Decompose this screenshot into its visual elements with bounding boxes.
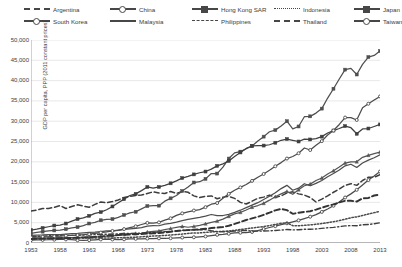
x-tick-label: 1968 xyxy=(103,246,133,254)
legend-item-hong-kong-sar[interactable]: Hong Kong SAR xyxy=(192,3,266,15)
legend-marker-icon xyxy=(119,6,126,13)
legend-label: Taiwan xyxy=(383,18,402,25)
legend-label: South Korea xyxy=(53,18,87,25)
legend-swatch-icon xyxy=(354,4,380,14)
legend-swatch-icon xyxy=(274,16,300,26)
legend-label: Thailand xyxy=(303,18,327,25)
x-tick-label: 1993 xyxy=(249,246,279,254)
legend-marker-icon xyxy=(363,6,370,13)
chart-legend: ArgentinaChinaHong Kong SARIndonesiaJapa… xyxy=(24,2,386,28)
legend-item-argentina[interactable]: Argentina xyxy=(24,3,80,15)
legend-label: Malaysia xyxy=(139,18,163,25)
legend-row-1: ArgentinaChinaHong Kong SARIndonesiaJapa… xyxy=(24,3,386,15)
y-tick-label: 30,000 xyxy=(1,118,29,125)
legend-marker-icon xyxy=(363,18,370,25)
legend-swatch-icon xyxy=(110,16,136,26)
legend-label: Argentina xyxy=(53,6,80,13)
legend-item-philippines[interactable]: Philippines xyxy=(192,15,251,27)
y-tick-label: 15,000 xyxy=(1,179,29,186)
y-tick-label: 20,000 xyxy=(1,158,29,165)
legend-label: Hong Kong SAR xyxy=(221,6,266,13)
legend-item-south-korea[interactable]: South Korea xyxy=(24,15,87,27)
legend-marker-icon xyxy=(33,18,40,25)
x-tick-label: 1953 xyxy=(16,246,46,254)
plot-area xyxy=(31,40,380,243)
x-tick-label: 1988 xyxy=(220,246,250,254)
x-axis-tick-labels: 1953195819631968197319781983198819931998… xyxy=(31,246,380,260)
y-tick-label: 25,000 xyxy=(1,138,29,145)
legend-item-indonesia[interactable]: Indonesia xyxy=(274,3,330,15)
y-tick-label: 50,000 xyxy=(1,37,29,44)
x-tick-label: 2008 xyxy=(336,246,366,254)
legend-label: Indonesia xyxy=(303,6,330,13)
y-tick-label: 35,000 xyxy=(1,97,29,104)
series-canvas xyxy=(31,40,380,243)
x-tick-label: 2013 xyxy=(365,246,395,254)
x-tick-label: 1973 xyxy=(132,246,162,254)
legend-swatch-icon xyxy=(110,4,136,14)
legend-item-malaysia[interactable]: Malaysia xyxy=(110,15,163,27)
legend-swatch-icon xyxy=(274,4,300,14)
legend-label: Japan xyxy=(383,6,400,13)
x-tick-label: 1998 xyxy=(278,246,308,254)
y-tick-label: 40,000 xyxy=(1,77,29,84)
x-tick-label: 2003 xyxy=(307,246,337,254)
y-tick-label: 10,000 xyxy=(1,199,29,206)
x-tick-label: 1958 xyxy=(45,246,75,254)
legend-row-2: South KoreaMalaysiaPhilippinesThailandTa… xyxy=(24,15,386,27)
y-tick-label: 5,000 xyxy=(1,219,29,226)
legend-item-china[interactable]: China xyxy=(110,3,155,15)
legend-item-japan[interactable]: Japan xyxy=(354,3,400,15)
y-tick-label: 45,000 xyxy=(1,57,29,64)
legend-item-taiwan[interactable]: Taiwan xyxy=(354,15,402,27)
x-tick-label: 1963 xyxy=(74,246,104,254)
legend-swatch-icon xyxy=(354,16,380,26)
legend-swatch-icon xyxy=(192,4,218,14)
legend-marker-icon xyxy=(201,6,208,13)
legend-label: China xyxy=(139,6,155,13)
y-axis-tick-labels: 05,00010,00015,00020,00025,00030,00035,0… xyxy=(0,40,29,243)
legend-item-thailand[interactable]: Thailand xyxy=(274,15,327,27)
gridlines xyxy=(31,40,380,243)
x-tick-label: 1983 xyxy=(191,246,221,254)
x-tick-label: 1978 xyxy=(161,246,191,254)
legend-swatch-icon xyxy=(192,16,218,26)
legend-label: Philippines xyxy=(221,18,251,25)
